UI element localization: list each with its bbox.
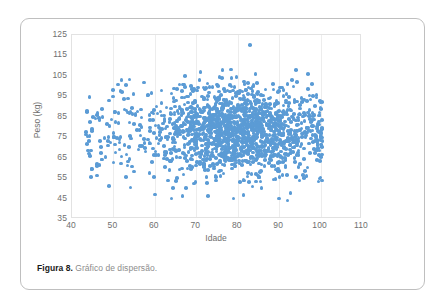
data-point: [204, 86, 208, 90]
data-point: [199, 127, 203, 131]
y-tick-115: 115: [31, 49, 67, 59]
y-axis-title: Peso (kg): [32, 90, 42, 150]
data-point: [163, 165, 167, 169]
data-point: [255, 126, 259, 130]
x-tick-40: 40: [51, 220, 91, 230]
data-point: [197, 122, 201, 126]
data-point: [180, 124, 184, 128]
data-point: [242, 193, 246, 197]
data-point: [254, 72, 258, 76]
data-point: [304, 135, 308, 139]
data-point: [236, 137, 240, 141]
data-point: [119, 162, 123, 166]
data-point: [260, 126, 264, 130]
data-point: [117, 111, 121, 115]
data-point: [160, 89, 164, 93]
data-point: [95, 162, 99, 166]
data-point: [246, 160, 250, 164]
data-point: [246, 81, 250, 85]
data-point: [308, 113, 312, 117]
data-point: [160, 101, 164, 105]
data-point: [238, 107, 242, 111]
data-point: [302, 147, 306, 151]
data-point: [318, 149, 322, 153]
data-point: [233, 108, 237, 112]
data-point: [246, 175, 250, 179]
data-point: [206, 138, 210, 142]
data-point: [306, 166, 310, 170]
data-point: [181, 194, 185, 198]
data-point: [194, 152, 198, 156]
data-point: [114, 151, 118, 155]
data-point: [286, 129, 290, 133]
data-point: [227, 102, 231, 106]
data-point: [185, 159, 189, 163]
data-point: [98, 139, 102, 143]
data-point: [285, 113, 289, 117]
data-point: [199, 70, 203, 74]
data-point: [192, 87, 196, 91]
data-point: [199, 151, 203, 155]
data-point: [128, 78, 132, 82]
data-point: [233, 147, 237, 151]
data-point: [285, 173, 289, 177]
data-point: [125, 153, 129, 157]
data-point: [144, 150, 148, 154]
data-point: [240, 154, 244, 158]
data-point: [128, 121, 132, 125]
x-tick-100: 100: [300, 220, 340, 230]
data-point: [192, 182, 196, 186]
data-point: [278, 175, 282, 179]
data-point: [233, 111, 237, 115]
y-tick-125: 125: [31, 29, 67, 39]
data-point: [206, 168, 210, 172]
data-point: [271, 82, 275, 86]
data-point: [258, 170, 262, 174]
x-tick-50: 50: [92, 220, 132, 230]
data-point: [178, 107, 182, 111]
data-point: [118, 148, 122, 152]
data-point: [311, 94, 315, 98]
data-point: [300, 121, 304, 125]
data-point: [88, 95, 92, 99]
data-point: [320, 179, 324, 183]
data-point: [129, 186, 133, 190]
y-tick-105: 105: [31, 70, 67, 80]
data-point: [164, 135, 168, 139]
data-point: [297, 153, 301, 157]
data-point: [313, 104, 317, 108]
data-point: [168, 168, 172, 172]
data-point: [233, 165, 237, 169]
data-point: [172, 100, 176, 104]
data-point: [184, 186, 188, 190]
data-point: [88, 134, 92, 138]
data-point: [292, 85, 296, 89]
data-point: [220, 108, 224, 112]
data-point: [269, 120, 273, 124]
data-point: [181, 111, 185, 115]
data-point: [206, 98, 210, 102]
data-point: [143, 146, 147, 150]
data-point: [269, 96, 273, 100]
x-tick-90: 90: [258, 220, 298, 230]
data-point: [186, 101, 190, 105]
data-point: [85, 142, 89, 146]
data-point: [105, 122, 109, 126]
data-point: [229, 68, 233, 72]
data-point: [170, 197, 174, 201]
data-point: [95, 174, 99, 178]
data-point: [137, 148, 141, 152]
data-point: [282, 112, 286, 116]
data-point: [183, 146, 187, 150]
data-point: [183, 103, 187, 107]
data-point: [168, 120, 172, 124]
data-point: [305, 174, 309, 178]
data-point: [298, 107, 302, 111]
data-point: [291, 138, 295, 142]
data-point: [182, 173, 186, 177]
data-point: [263, 164, 267, 168]
data-point: [233, 128, 237, 132]
data-point: [156, 112, 160, 116]
data-point: [110, 118, 114, 122]
data-point: [161, 122, 165, 126]
